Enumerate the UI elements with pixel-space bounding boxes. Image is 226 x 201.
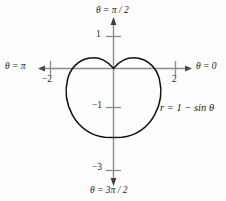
vertical-axis: [106, 17, 121, 186]
x-tick-label-pos-2: 2: [172, 75, 177, 85]
x-tick-label-neg-2: −2: [42, 75, 52, 85]
curve-equation-label: r = 1 − sin θ: [160, 103, 214, 114]
polar-plot-canvas: [0, 0, 226, 201]
vertical-axis-arrow-up-icon: [111, 17, 117, 25]
horizontal-axis-arrow-left-icon: [38, 66, 45, 72]
y-tick-label-neg-3: −3: [92, 163, 102, 173]
y-tick-label-pos-1: 1: [96, 30, 101, 40]
y-tick-label-neg-1: −1: [92, 101, 102, 111]
axis-direction-label-top: θ = π / 2: [96, 6, 129, 16]
horizontal-axis: [38, 61, 192, 76]
axis-direction-label-right: θ = 0: [196, 62, 217, 72]
axis-direction-label-bottom: θ = 3π / 2: [90, 186, 127, 196]
polar-plot-figure: θ = π / 2 θ = 3π / 2 θ = π θ = 0 1 −1 −3…: [0, 0, 226, 201]
axis-direction-label-left: θ = π: [5, 62, 26, 72]
horizontal-axis-arrow-right-icon: [185, 66, 192, 72]
